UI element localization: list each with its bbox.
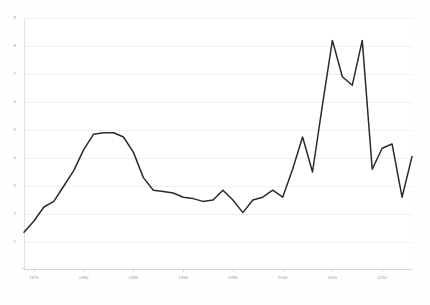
x-tick-mark [183, 270, 184, 272]
series-layer [24, 18, 412, 270]
y-tick-label: 2 [2, 212, 16, 216]
x-tick-label: 1985 [121, 276, 145, 280]
x-tick-mark [34, 270, 35, 272]
y-tick-label: 4 [2, 156, 16, 160]
x-tick-label: 2000 [271, 276, 295, 280]
y-tick-label: 8 [2, 44, 16, 48]
y-tick-label: 7 [2, 72, 16, 76]
x-tick-mark [233, 270, 234, 272]
x-tick-label: 2005 [320, 276, 344, 280]
y-tick-label: 6 [2, 100, 16, 104]
x-tick-label: 1990 [171, 276, 195, 280]
x-tick-label: 1980 [72, 276, 96, 280]
x-tick-label: 1995 [221, 276, 245, 280]
x-tick-mark [133, 270, 134, 272]
y-tick-label: 5 [2, 128, 16, 132]
y-tick-label: 1 [2, 240, 16, 244]
x-tick-label: 2010 [370, 276, 394, 280]
x-tick-mark [382, 270, 383, 272]
y-tick-label: 9 [2, 16, 16, 20]
x-tick-mark [84, 270, 85, 272]
data-line-series-1 [24, 40, 412, 232]
line-chart: 123456789 197519801985199019952000200520… [0, 0, 430, 305]
x-tick-mark [283, 270, 284, 272]
x-tick-label: 1975 [22, 276, 46, 280]
x-tick-mark [332, 270, 333, 272]
y-tick-label: 3 [2, 184, 16, 188]
